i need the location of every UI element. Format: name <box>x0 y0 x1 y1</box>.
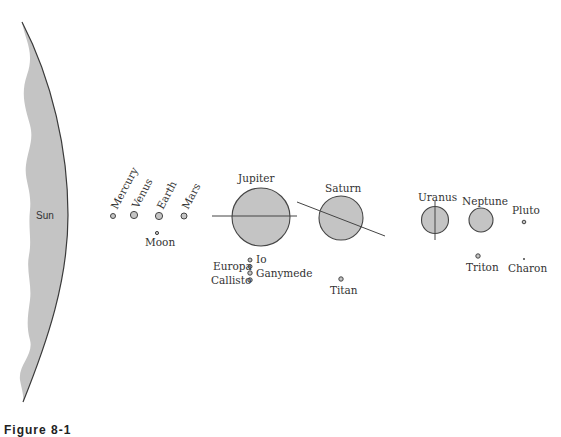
label-titan: Titan <box>330 284 358 296</box>
moon-charon <box>523 258 525 260</box>
inner-planets <box>111 211 188 234</box>
label-jupiter: Jupiter <box>237 172 275 184</box>
moon-triton <box>476 254 480 258</box>
label-io: Io <box>256 253 266 265</box>
planet-neptune <box>469 208 493 232</box>
uranus-group: Uranus <box>418 191 457 240</box>
label-uranus: Uranus <box>418 191 457 203</box>
label-pluto: Pluto <box>512 204 540 216</box>
planet-jupiter <box>232 188 290 246</box>
jupiter-group: Jupiter Io Europa Ganymede Callisto <box>211 172 312 286</box>
label-saturn: Saturn <box>325 182 361 194</box>
sun-label: Sun <box>36 210 54 221</box>
planet-pluto <box>522 220 526 224</box>
planet-mars <box>181 213 187 219</box>
label-moon: Moon <box>145 236 175 248</box>
label-ganymede: Ganymede <box>256 267 312 279</box>
planet-mercury <box>111 214 116 219</box>
sun: Sun <box>20 22 68 402</box>
label-europa: Europa <box>213 260 252 272</box>
label-earth: Earth <box>154 179 179 211</box>
planet-venus <box>130 211 137 218</box>
moon-moon <box>155 231 158 234</box>
neptune-group: Neptune Triton <box>462 195 508 273</box>
label-neptune: Neptune <box>462 195 508 207</box>
figure-caption: Figure 8-1 <box>4 423 71 437</box>
label-triton: Triton <box>466 261 499 273</box>
label-mars: Mars <box>179 181 202 211</box>
moon-titan <box>339 277 343 281</box>
pluto-group: Pluto Charon <box>508 204 547 274</box>
label-callisto: Callisto <box>211 274 251 286</box>
planet-saturn <box>319 196 363 240</box>
planet-earth <box>155 212 162 219</box>
label-charon: Charon <box>508 262 547 274</box>
